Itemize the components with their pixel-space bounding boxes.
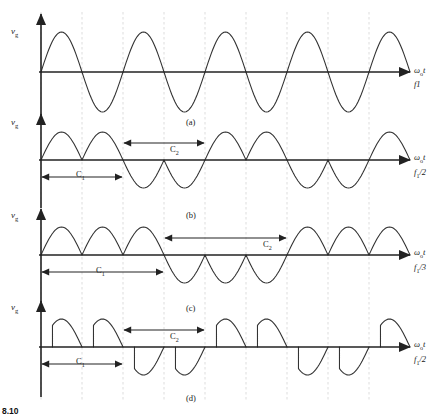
frequency-label-d: f1/2	[414, 355, 426, 366]
panel-caption-a: (a)	[186, 118, 195, 127]
panel-caption-b: (b)	[186, 211, 196, 220]
frequency-label-c: f1/3	[414, 263, 426, 274]
frequency-label-b: f1/2	[414, 168, 426, 179]
panel-caption-d: (d)	[186, 394, 196, 403]
cycloconverter-waveform-figure	[0, 0, 437, 417]
x-axis-label-c: ωot	[414, 248, 425, 259]
panel-caption-c: (c)	[186, 304, 195, 313]
interval-label-c1-c: C1	[96, 266, 105, 277]
interval-label-c2-d: C2	[170, 332, 179, 343]
y-axis-label-d: vg	[11, 303, 18, 314]
x-axis-label-b: ωot	[414, 153, 425, 164]
interval-label-c2-b: C2	[170, 145, 179, 156]
x-axis-label-a: ωot	[414, 66, 425, 77]
interval-label-c1-b: C1	[76, 170, 85, 181]
figure-number: 8.10	[2, 406, 19, 416]
waveforms-layer	[41, 32, 410, 375]
y-axis-label-c: vg	[11, 211, 18, 222]
interval-label-c1-d: C1	[76, 357, 85, 368]
frequency-label-a: f1	[414, 80, 421, 89]
axes-layer	[39, 14, 410, 397]
interval-label-c2-c: C2	[263, 240, 272, 251]
y-axis-label-b: vg	[11, 118, 18, 129]
x-axis-label-d: ωot	[414, 340, 425, 351]
y-axis-label-a: vg	[11, 27, 18, 38]
